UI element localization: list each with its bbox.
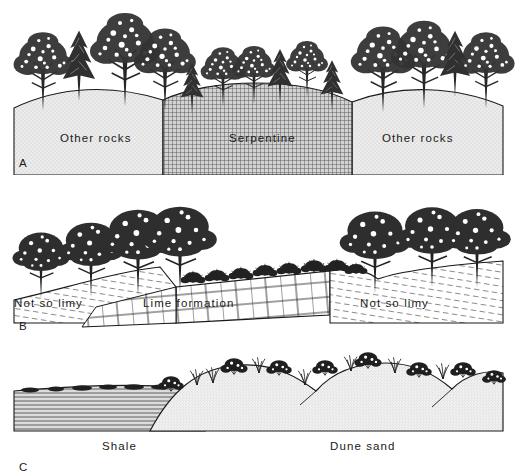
label-not-so-limy-left: Not so limy [14, 297, 83, 309]
panel-letter-b: B [19, 320, 28, 332]
label-serpentine: Serpentine [229, 132, 296, 144]
panel-c-illustration [0, 335, 516, 470]
panel-b: Not so limy Lime formation Not so limy B [0, 175, 516, 335]
panel-letter-a: A [19, 157, 28, 169]
label-other-rocks-left: Other rocks [60, 132, 132, 144]
panel-c: Shale Dune sand C [0, 335, 516, 470]
label-lime-formation: Lime formation [143, 297, 234, 309]
panel-a-illustration [0, 0, 516, 175]
panel-letter-c: C [19, 461, 28, 473]
label-dune-sand: Dune sand [330, 440, 396, 452]
label-not-so-limy-right: Not so limy [360, 297, 429, 309]
label-other-rocks-right: Other rocks [382, 132, 454, 144]
label-shale: Shale [102, 440, 137, 452]
panel-b-illustration [0, 175, 516, 335]
panel-a: Other rocks Serpentine Other rocks A [0, 0, 516, 175]
